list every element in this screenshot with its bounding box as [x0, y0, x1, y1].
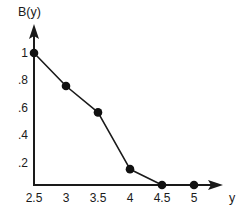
y-tick-label: 1 [21, 46, 28, 60]
chart-figure: B(y) y 1 .8 .6 .4 .2 2.5 3 3.5 4 4.5 5 [0, 0, 244, 213]
x-tick-label: 3.5 [90, 191, 107, 205]
data-point [30, 49, 39, 58]
x-tick-label: 3 [63, 191, 70, 205]
y-tick-label: .8 [18, 73, 28, 87]
x-axis-title: y [229, 191, 236, 205]
data-point-markers [30, 49, 199, 190]
y-tick-label: .2 [18, 156, 28, 170]
data-point [158, 181, 167, 190]
data-point [190, 181, 199, 190]
data-point [126, 165, 135, 174]
data-point [62, 82, 71, 91]
x-tick-label: 4 [127, 191, 134, 205]
y-tick-label: .6 [18, 101, 28, 115]
x-tick-label: 2.5 [26, 191, 43, 205]
x-tick-label: 5 [191, 191, 198, 205]
y-tick-label: .4 [18, 128, 28, 142]
x-tick-label: 4.5 [154, 191, 171, 205]
data-point [94, 108, 103, 117]
chart-canvas: B(y) y 1 .8 .6 .4 .2 2.5 3 3.5 4 4.5 5 [0, 0, 244, 213]
data-series-line [34, 53, 194, 185]
y-axis-title: B(y) [18, 5, 41, 19]
